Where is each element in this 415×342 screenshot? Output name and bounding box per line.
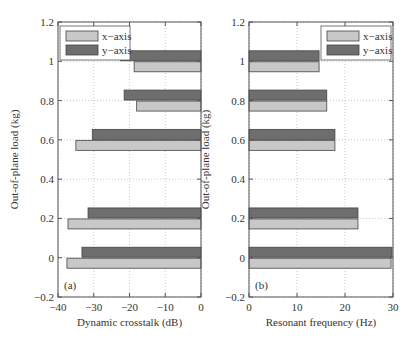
bar-y-axis bbox=[249, 51, 319, 61]
x-axis-label: Resonant frequency (Hz) bbox=[266, 316, 377, 329]
x-tick-label: 20 bbox=[340, 301, 352, 313]
x-tick-label: 0 bbox=[198, 301, 204, 313]
bar-y-axis bbox=[82, 247, 201, 257]
y-tick-label: −0.2 bbox=[225, 291, 245, 303]
y-axis-label: Out-of-plane load (kg) bbox=[199, 109, 212, 209]
x-tick-label: 10 bbox=[292, 301, 304, 313]
bar-y-axis bbox=[249, 247, 392, 257]
legend-label: x−axis bbox=[363, 30, 392, 42]
bar-x-axis bbox=[249, 140, 335, 150]
y-tick-label: 1 bbox=[240, 55, 246, 67]
bar-x-axis bbox=[249, 258, 391, 268]
y-tick-label: −0.2 bbox=[34, 291, 54, 303]
bar-x-axis bbox=[68, 219, 201, 229]
legend: x−axisy−axis bbox=[60, 26, 131, 60]
x-tick-label: 30 bbox=[388, 301, 400, 313]
legend-label: y−axis bbox=[363, 44, 392, 56]
y-tick-label: 0 bbox=[240, 252, 246, 264]
panel-label: (a) bbox=[64, 279, 77, 292]
figure: −40−30−20−100−0.200.20.40.60.811.2Dynami… bbox=[0, 0, 415, 342]
y-tick-label: 0.2 bbox=[231, 212, 245, 224]
x-tick-label: −30 bbox=[85, 301, 103, 313]
bar-x-axis bbox=[134, 62, 201, 72]
y-tick-label: 0.8 bbox=[231, 95, 245, 107]
legend-swatch-y-axis bbox=[327, 45, 359, 55]
legend-label: y−axis bbox=[102, 44, 131, 56]
y-tick-label: 0.2 bbox=[40, 212, 54, 224]
bar-y-axis bbox=[249, 129, 335, 139]
bar-x-axis bbox=[67, 258, 201, 268]
bar-y-axis bbox=[92, 129, 201, 139]
bar-x-axis bbox=[249, 101, 327, 111]
legend-swatch-x-axis bbox=[66, 31, 98, 41]
y-tick-label: 1.2 bbox=[231, 16, 245, 28]
x-tick-label: −10 bbox=[157, 301, 175, 313]
legend: x−axisy−axis bbox=[321, 26, 392, 60]
x-tick-label: 0 bbox=[246, 301, 252, 313]
chart-panel-a: −40−30−20−100−0.200.20.40.60.811.2Dynami… bbox=[8, 16, 204, 329]
y-tick-label: 0 bbox=[49, 252, 55, 264]
bar-x-axis bbox=[137, 101, 201, 111]
bar-x-axis bbox=[76, 140, 201, 150]
bar-x-axis bbox=[249, 62, 319, 72]
bar-y-axis bbox=[88, 208, 201, 218]
y-tick-label: 1 bbox=[49, 55, 55, 67]
bar-y-axis bbox=[249, 90, 327, 100]
x-axis-label: Dynamic crosstalk (dB) bbox=[77, 316, 182, 329]
y-tick-label: 0.6 bbox=[40, 134, 54, 146]
y-tick-label: 1.2 bbox=[40, 16, 54, 28]
bar-y-axis bbox=[121, 51, 201, 61]
legend-label: x−axis bbox=[102, 30, 131, 42]
y-tick-label: 0.4 bbox=[40, 173, 54, 185]
y-tick-label: 0.6 bbox=[231, 134, 245, 146]
chart-panel-b: 0102030−0.200.20.40.60.811.2Resonant fre… bbox=[199, 16, 399, 329]
y-tick-label: 0.4 bbox=[231, 173, 245, 185]
bar-y-axis bbox=[124, 90, 201, 100]
bar-x-axis bbox=[249, 219, 358, 229]
legend-swatch-x-axis bbox=[327, 31, 359, 41]
y-tick-label: 0.8 bbox=[40, 95, 54, 107]
y-axis-label: Out-of-plane load (kg) bbox=[8, 109, 21, 209]
x-tick-label: −20 bbox=[121, 301, 139, 313]
panel-label: (b) bbox=[255, 279, 268, 292]
bar-y-axis bbox=[249, 208, 358, 218]
legend-swatch-y-axis bbox=[66, 45, 98, 55]
